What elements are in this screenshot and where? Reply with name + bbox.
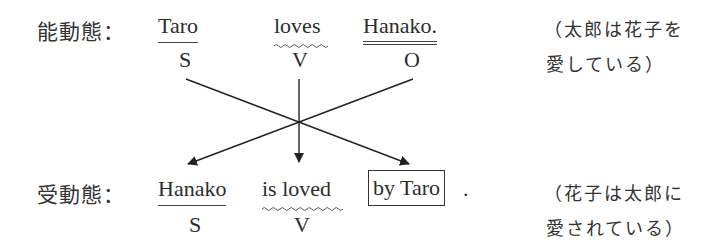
passive-translation-line2: 愛されている） bbox=[546, 214, 685, 240]
passive-verb-role: V bbox=[287, 212, 317, 238]
active-voice-label: 能動態： bbox=[37, 15, 125, 45]
active-subject-role: S bbox=[170, 47, 200, 73]
active-object-role: O bbox=[397, 47, 427, 73]
active-subject: Taro bbox=[158, 13, 198, 43]
passive-subject: Hanako bbox=[158, 176, 226, 206]
passive-subject-role: S bbox=[180, 212, 210, 238]
passive-translation-line1: （花子は太郎に bbox=[544, 179, 684, 205]
active-translation-line1: （太郎は花子を bbox=[544, 15, 684, 41]
arrow-s-to-agent bbox=[186, 79, 409, 164]
passive-verb-text: is loved bbox=[262, 176, 331, 201]
passive-agent-box: by Taro bbox=[368, 170, 445, 206]
active-verb-role: V bbox=[285, 47, 315, 73]
active-verb: loves bbox=[274, 13, 320, 39]
active-verb-text: loves bbox=[274, 13, 320, 38]
passive-period: . bbox=[463, 176, 469, 202]
arrow-o-to-s bbox=[188, 79, 413, 164]
active-object: Hanako. bbox=[363, 13, 437, 45]
passive-voice-label: 受動態： bbox=[37, 178, 125, 208]
active-translation-line2: 愛している） bbox=[546, 50, 665, 76]
passive-verb: is loved bbox=[262, 176, 331, 202]
